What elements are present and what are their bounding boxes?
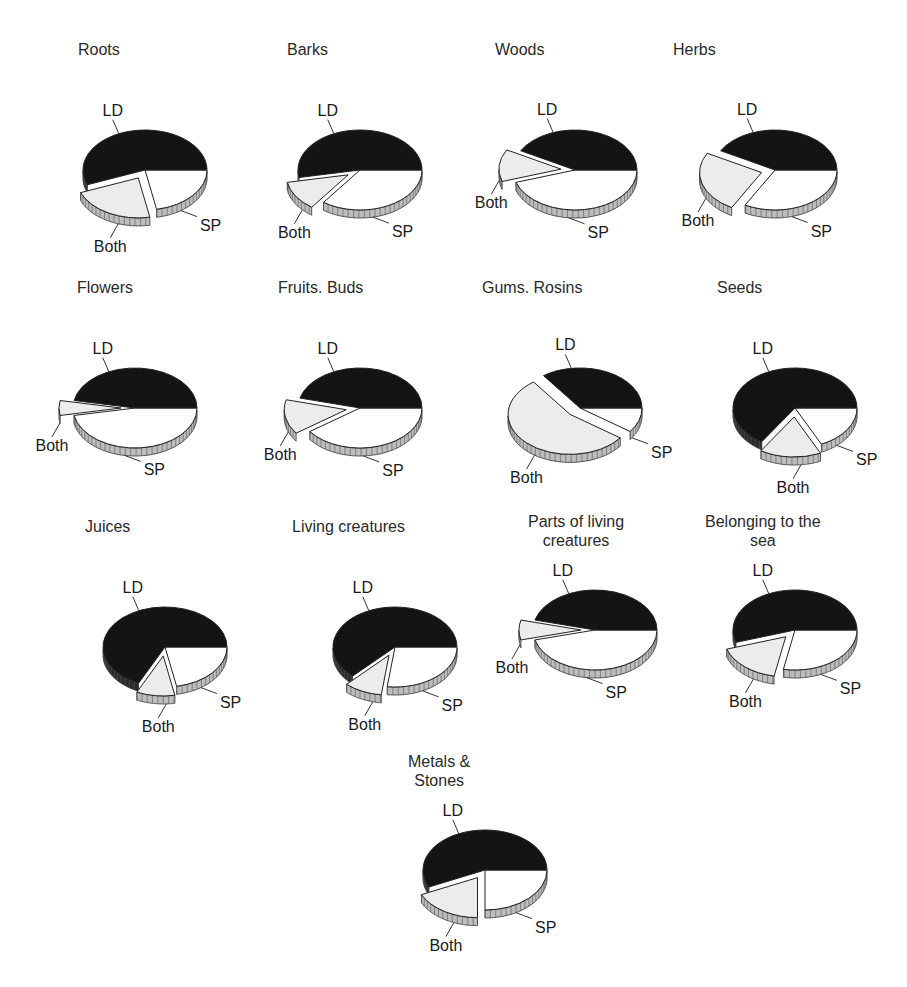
label-ld: LD <box>103 102 123 119</box>
label-ld: LD <box>353 579 373 596</box>
pie-chart-herbs: HerbsLDSPBoth <box>670 40 880 260</box>
pie-graphic: LDSPBoth <box>475 278 685 498</box>
pie-chart-living-creatures: Living creaturesLDSPBoth <box>290 517 500 737</box>
label-both: Both <box>348 716 381 733</box>
pie-graphic: LDSPBoth <box>290 517 500 737</box>
label-sp: SP <box>840 680 861 697</box>
label-both: Both <box>35 437 68 454</box>
pie-chart-roots: RootsLDSPBoth <box>40 40 250 260</box>
slice-ld <box>298 130 422 177</box>
slice-ld <box>544 368 642 408</box>
pie-graphic: LDSPBoth <box>670 40 880 260</box>
label-ld: LD <box>753 340 773 357</box>
pie-graphic: LDSPBoth <box>490 512 700 732</box>
label-ld: LD <box>737 101 757 118</box>
pie-chart-seeds: SeedsLDSPBoth <box>690 278 900 498</box>
pie-graphic: LDSPBoth <box>690 278 900 498</box>
pie-chart-belonging-to-the-sea: Belonging to theseaLDSPBoth <box>690 512 900 732</box>
slice-ld <box>300 368 422 408</box>
pie-graphic: LDSPBoth <box>470 40 680 260</box>
label-both: Both <box>278 224 311 241</box>
pie-graphic: LDSPBoth <box>255 40 465 260</box>
pie-chart-barks: BarksLDSPBoth <box>255 40 465 260</box>
pie-graphic: LDSPBoth <box>255 278 465 498</box>
label-ld: LD <box>93 340 113 357</box>
pie-chart-fruits-buds: Fruits. BudsLDSPBoth <box>255 278 465 498</box>
label-sp: SP <box>392 223 413 240</box>
label-sp: SP <box>856 451 877 468</box>
label-sp: SP <box>651 444 672 461</box>
pie-chart-woods: WoodsLDSPBoth <box>470 40 680 260</box>
pie-graphic: LDSPBoth <box>40 40 250 260</box>
label-ld: LD <box>318 340 338 357</box>
slice-sp <box>783 630 857 670</box>
label-sp: SP <box>220 694 241 711</box>
label-sp: SP <box>200 217 221 234</box>
pie-chart-juices: JuicesLDSPBoth <box>60 517 270 737</box>
label-both: Both <box>142 718 175 735</box>
label-both: Both <box>429 937 462 954</box>
label-sp: SP <box>535 919 556 936</box>
pie-chart-parts-of-living-creatures: Parts of livingcreaturesLDSPBoth <box>490 512 700 732</box>
label-both: Both <box>777 479 810 496</box>
label-sp: SP <box>606 684 627 701</box>
slice-sp <box>485 870 547 910</box>
label-ld: LD <box>537 101 557 118</box>
label-sp: SP <box>588 224 609 241</box>
label-ld: LD <box>753 562 773 579</box>
label-sp: SP <box>442 697 463 714</box>
label-both: Both <box>495 659 528 676</box>
pie-chart-flowers: FlowersLDSPBoth <box>30 278 240 498</box>
slice-ld <box>535 590 657 630</box>
label-sp: SP <box>144 461 165 478</box>
slice-sp <box>165 647 227 686</box>
slice-sp <box>387 647 457 687</box>
pie-graphic: LDSPBoth <box>30 278 240 498</box>
label-sp: SP <box>382 462 403 479</box>
pie-chart-metals-stones: Metals &StonesLDSPBoth <box>380 752 590 972</box>
slice-ld <box>74 368 197 408</box>
label-both: Both <box>94 238 127 255</box>
label-both: Both <box>264 446 297 463</box>
label-both: Both <box>681 212 714 229</box>
label-ld: LD <box>443 802 463 819</box>
label-both: Both <box>729 693 762 710</box>
label-ld: LD <box>553 562 573 579</box>
pie-graphic: LDSPBoth <box>690 512 900 732</box>
label-ld: LD <box>555 336 575 353</box>
pie-chart-gums-rosins: Gums. RosinsLDSPBoth <box>475 278 685 498</box>
label-both: Both <box>510 469 543 486</box>
label-ld: LD <box>318 102 338 119</box>
pie-graphic: LDSPBoth <box>380 752 590 972</box>
pie-graphic: LDSPBoth <box>60 517 270 737</box>
slice-sp <box>145 170 207 209</box>
label-both: Both <box>475 194 508 211</box>
label-sp: SP <box>811 223 832 240</box>
label-ld: LD <box>123 579 143 596</box>
